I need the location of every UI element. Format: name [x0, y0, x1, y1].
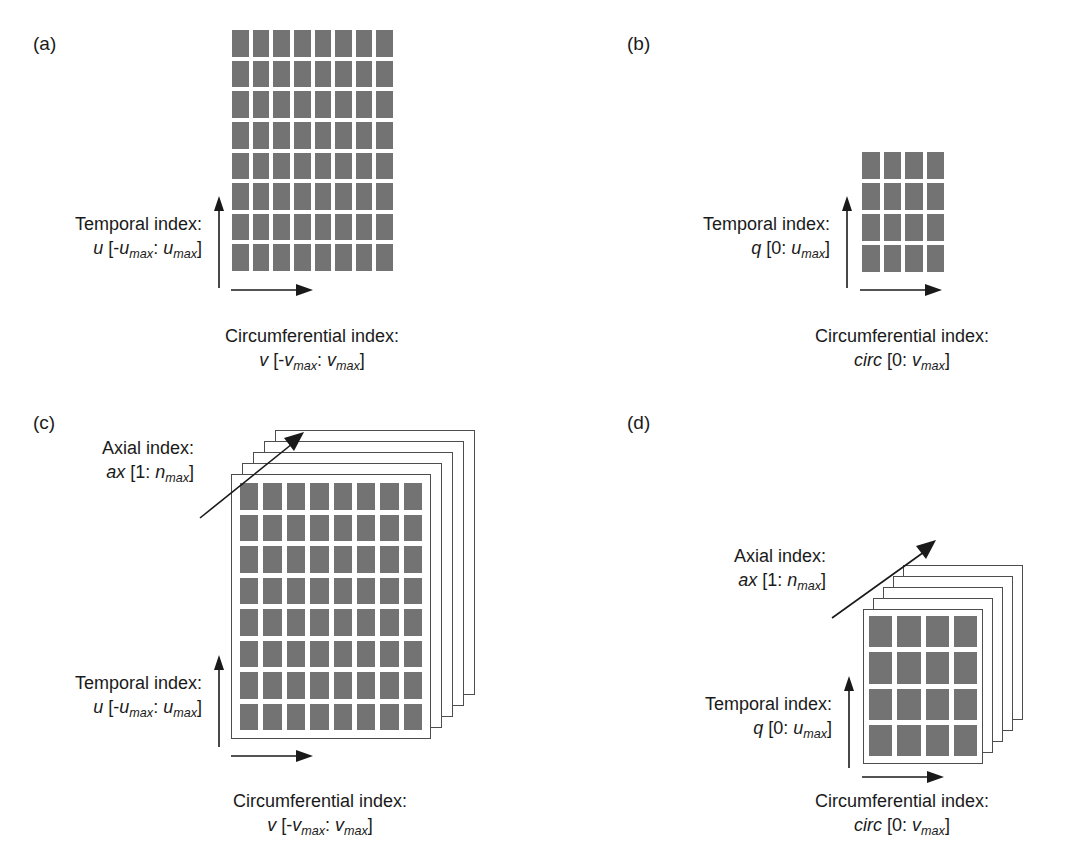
sample-cell: [862, 183, 880, 210]
panel-letter-c: (c): [33, 412, 55, 434]
panel-d-grid: [869, 616, 977, 756]
sample-cell: [897, 652, 920, 683]
sample-cell: [356, 61, 373, 88]
sample-cell: [376, 214, 393, 241]
sample-cell: [927, 214, 945, 241]
sample-cell: [869, 652, 892, 683]
panel-b-temporal-caption: Temporal index: q [0: umax]: [638, 213, 830, 261]
sample-cell: [357, 578, 375, 605]
sample-cell: [253, 91, 270, 118]
sample-cell: [273, 214, 290, 241]
sample-cell: [927, 183, 945, 210]
sample-cell: [356, 214, 373, 241]
sample-cell: [232, 153, 249, 180]
panel-d-temporal-title: Temporal index:: [640, 693, 832, 717]
sample-cell: [862, 245, 880, 272]
sample-cell: [884, 183, 902, 210]
panel-c-temporal-caption: Temporal index: u [-umax: umax]: [10, 672, 202, 720]
panel-b-vertical-axis-arrow: [838, 196, 856, 288]
sample-cell: [380, 515, 398, 542]
sample-cell: [253, 244, 270, 271]
sample-cell: [253, 183, 270, 210]
sample-cell: [356, 244, 373, 271]
panel-a-circumferential-caption: Circumferential index: v [-vmax: vmax]: [152, 325, 472, 373]
sample-cell: [927, 152, 945, 179]
sample-cell: [356, 153, 373, 180]
panel-letter-a: (a): [33, 33, 56, 55]
sample-cell: [404, 515, 422, 542]
panel-d-vertical-axis-arrow: [840, 676, 858, 768]
sample-cell: [376, 91, 393, 118]
sample-cell: [232, 122, 249, 149]
panel-d-axial-axis-arrow: [828, 538, 938, 622]
panel-b-grid: [862, 152, 944, 272]
sample-cell: [334, 483, 352, 510]
panel-d-temporal-caption: Temporal index: q [0: umax]: [640, 693, 832, 741]
sample-cell: [273, 122, 290, 149]
panel-a-circumferential-title: Circumferential index:: [152, 325, 472, 349]
sample-cell: [273, 91, 290, 118]
sample-cell: [310, 515, 328, 542]
sample-cell: [310, 609, 328, 636]
panel-b-horizontal-axis-arrow: [860, 282, 942, 298]
sample-cell: [310, 704, 328, 731]
sample-cell: [273, 244, 290, 271]
sample-cell: [905, 183, 923, 210]
sample-cell: [884, 245, 902, 272]
sample-cell: [263, 704, 281, 731]
sample-cell: [380, 546, 398, 573]
panel-d-horizontal-axis-arrow: [862, 769, 944, 785]
sample-cell: [335, 91, 352, 118]
sample-cell: [926, 652, 949, 683]
sample-cell: [294, 61, 311, 88]
sample-cell: [404, 546, 422, 573]
sample-cell: [273, 183, 290, 210]
sample-cell: [404, 578, 422, 605]
panel-c-axial-range: ax [1: nmax]: [14, 461, 194, 485]
panel-b-temporal-title: Temporal index:: [638, 213, 830, 237]
sample-cell: [404, 483, 422, 510]
sample-cell: [287, 609, 305, 636]
sample-cell: [310, 672, 328, 699]
sample-cell: [294, 122, 311, 149]
sample-cell: [404, 704, 422, 731]
sample-cell: [380, 641, 398, 668]
sample-cell: [334, 704, 352, 731]
sample-cell: [897, 725, 920, 756]
sample-cell: [905, 245, 923, 272]
sample-cell: [869, 689, 892, 720]
panel-a-vertical-axis-arrow: [210, 196, 228, 288]
sample-cell: [287, 641, 305, 668]
panel-a-grid: [232, 30, 393, 271]
sample-cell: [884, 152, 902, 179]
panel-c-temporal-title: Temporal index:: [10, 672, 202, 696]
panel-d-axial-caption: Axial index: ax [1: nmax]: [646, 545, 826, 593]
panel-letter-b: (b): [627, 33, 650, 55]
sample-cell: [273, 30, 290, 57]
sample-cell: [335, 122, 352, 149]
sample-cell: [404, 641, 422, 668]
sample-cell: [273, 61, 290, 88]
panel-a-circumferential-range: v [-vmax: vmax]: [152, 349, 472, 373]
sample-cell: [926, 725, 949, 756]
sample-cell: [315, 183, 332, 210]
panel-b-circumferential-title: Circumferential index:: [742, 325, 1062, 349]
sample-cell: [357, 546, 375, 573]
sample-cell: [294, 91, 311, 118]
panel-b-circumferential-caption: Circumferential index: circ [0: vmax]: [742, 325, 1062, 373]
sample-cell: [310, 483, 328, 510]
sample-cell: [905, 152, 923, 179]
sample-cell: [376, 244, 393, 271]
sample-cell: [263, 609, 281, 636]
sample-cell: [287, 578, 305, 605]
sample-cell: [315, 61, 332, 88]
sample-cell: [334, 641, 352, 668]
panel-c-axial-caption: Axial index: ax [1: nmax]: [14, 437, 194, 485]
sample-cell: [253, 30, 270, 57]
panel-c-circumferential-caption: Circumferential index: v [-vmax: vmax]: [160, 790, 480, 838]
sample-cell: [335, 183, 352, 210]
sample-cell: [380, 704, 398, 731]
sample-cell: [884, 214, 902, 241]
sample-cell: [287, 704, 305, 731]
sample-cell: [253, 122, 270, 149]
